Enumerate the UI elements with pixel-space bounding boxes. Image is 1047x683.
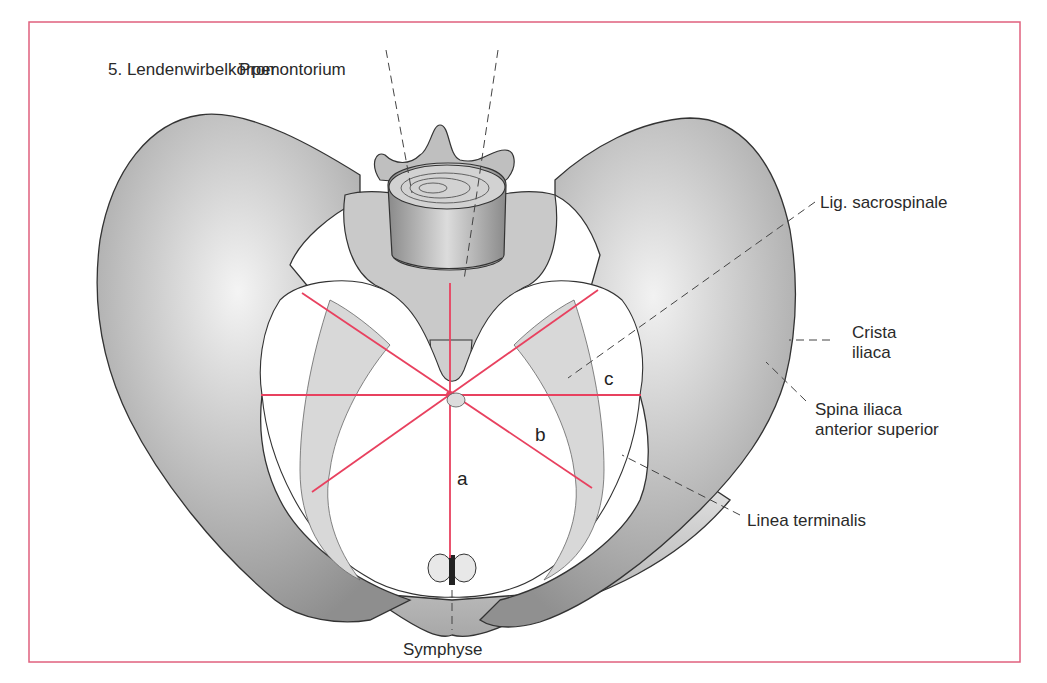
label-lig-sacrospinale: Lig. sacrospinale [820, 193, 948, 213]
label-symphyse: Symphyse [403, 640, 482, 660]
symphysis-left [428, 554, 452, 582]
label-spina-iliaca-1: Spina iliaca [815, 400, 902, 420]
label-crista-iliaca-2: iliaca [852, 343, 891, 363]
label-spina-iliaca-2: anterior superior [815, 420, 939, 440]
label-linea-terminalis: Linea terminalis [747, 511, 866, 531]
measurement-c-label: c [604, 368, 614, 390]
measurement-b-label: b [535, 424, 546, 446]
measurement-a-label: a [457, 468, 468, 490]
label-promontorium: Promontorium [239, 60, 346, 80]
symphysis-right [452, 554, 476, 582]
label-crista-iliaca-1: Crista [852, 323, 896, 343]
